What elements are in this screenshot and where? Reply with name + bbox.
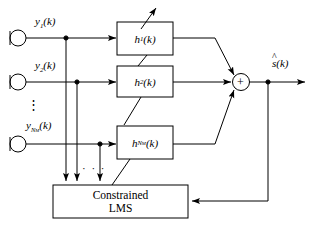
input-label-1: y1(k) (35, 16, 56, 30)
block-diagram-canvas: y1(k) y2(k) yNM(k) ⋮ · · · h1(k) h2(k) h… (0, 0, 315, 233)
feedback-line (192, 82, 268, 201)
input-ellipsis: ⋮ (26, 100, 40, 109)
adapt-link-h3 (112, 159, 130, 185)
summation-plus-sign: + (237, 76, 244, 88)
filter-label-3: hNM(k) (117, 126, 173, 159)
filter-out-3 (173, 90, 234, 144)
hat-accent: ^ (272, 52, 276, 62)
microphone-icon-1 (10, 30, 26, 46)
input-label-3: yNM(k) (26, 120, 51, 134)
output-label: ^ s(k) (272, 58, 289, 69)
filter-out-1 (173, 38, 234, 75)
lms-label-line1: Constrained (93, 189, 149, 202)
microphone-icon-3 (10, 136, 26, 152)
adapt-link-h1 (138, 55, 147, 66)
filter-label-1: h1(k) (117, 22, 173, 55)
constrained-lms-label: Constrained LMS (53, 185, 188, 218)
tap-ellipsis: · · · (82, 163, 106, 174)
microphone-icon-2 (10, 74, 26, 90)
adapt-link-h2 (124, 97, 141, 125)
filter-label-2: h2(k) (117, 66, 173, 97)
lms-label-line2: LMS (109, 202, 133, 215)
input-label-2: y2(k) (35, 60, 56, 74)
